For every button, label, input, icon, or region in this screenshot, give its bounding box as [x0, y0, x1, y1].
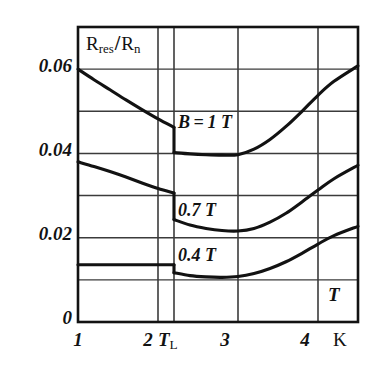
- y-tick-label-002: 0.02: [14, 224, 72, 243]
- curve-label-07t: 0.7 T: [178, 201, 216, 219]
- curve-branch-super-1: [174, 165, 358, 231]
- curve-branch-normal-0: [78, 69, 174, 127]
- y-axis-title: Rres/Rn: [86, 34, 140, 56]
- series-b-1-t: [78, 66, 358, 156]
- y-title-r-main: R: [86, 33, 99, 54]
- x-tick-label-1: 1: [64, 330, 92, 349]
- y-axis-title-denominator: Rn: [121, 33, 140, 54]
- x-axis-variable-label: T: [328, 285, 340, 304]
- x-tick-label-3: 3: [211, 330, 239, 349]
- curve-label-b-1t: B = 1 T: [178, 113, 232, 131]
- y-title-r-denom: R: [121, 33, 134, 54]
- y-tick-label-0: 0: [14, 308, 72, 327]
- y-tick-label-004: 0.04: [14, 140, 72, 159]
- series-0-4-t: [78, 226, 358, 277]
- curve-branch-super-0: [174, 66, 358, 156]
- series-0-7-t: [78, 162, 358, 231]
- curve-label-04t: 0.4 T: [178, 246, 216, 264]
- x-axis-unit-kelvin: K: [333, 330, 347, 349]
- chart-figure-page: 0.06 0.04 0.02 0 1 2 TL 3 4 K T Rres/Rn …: [0, 0, 380, 373]
- x-tick-label-4: 4: [291, 330, 319, 349]
- tl-subscript: L: [170, 337, 178, 352]
- curve-branch-normal-1: [78, 162, 174, 193]
- y-tick-label-006: 0.06: [14, 56, 72, 75]
- y-axis-title-numerator: Rres: [86, 33, 114, 54]
- tl-variable: T: [158, 329, 170, 350]
- y-title-sub-n: n: [134, 41, 140, 56]
- x-tick-label-tl: TL: [158, 330, 178, 352]
- curve-layer: [78, 66, 358, 278]
- y-title-sub-res: res: [99, 41, 114, 56]
